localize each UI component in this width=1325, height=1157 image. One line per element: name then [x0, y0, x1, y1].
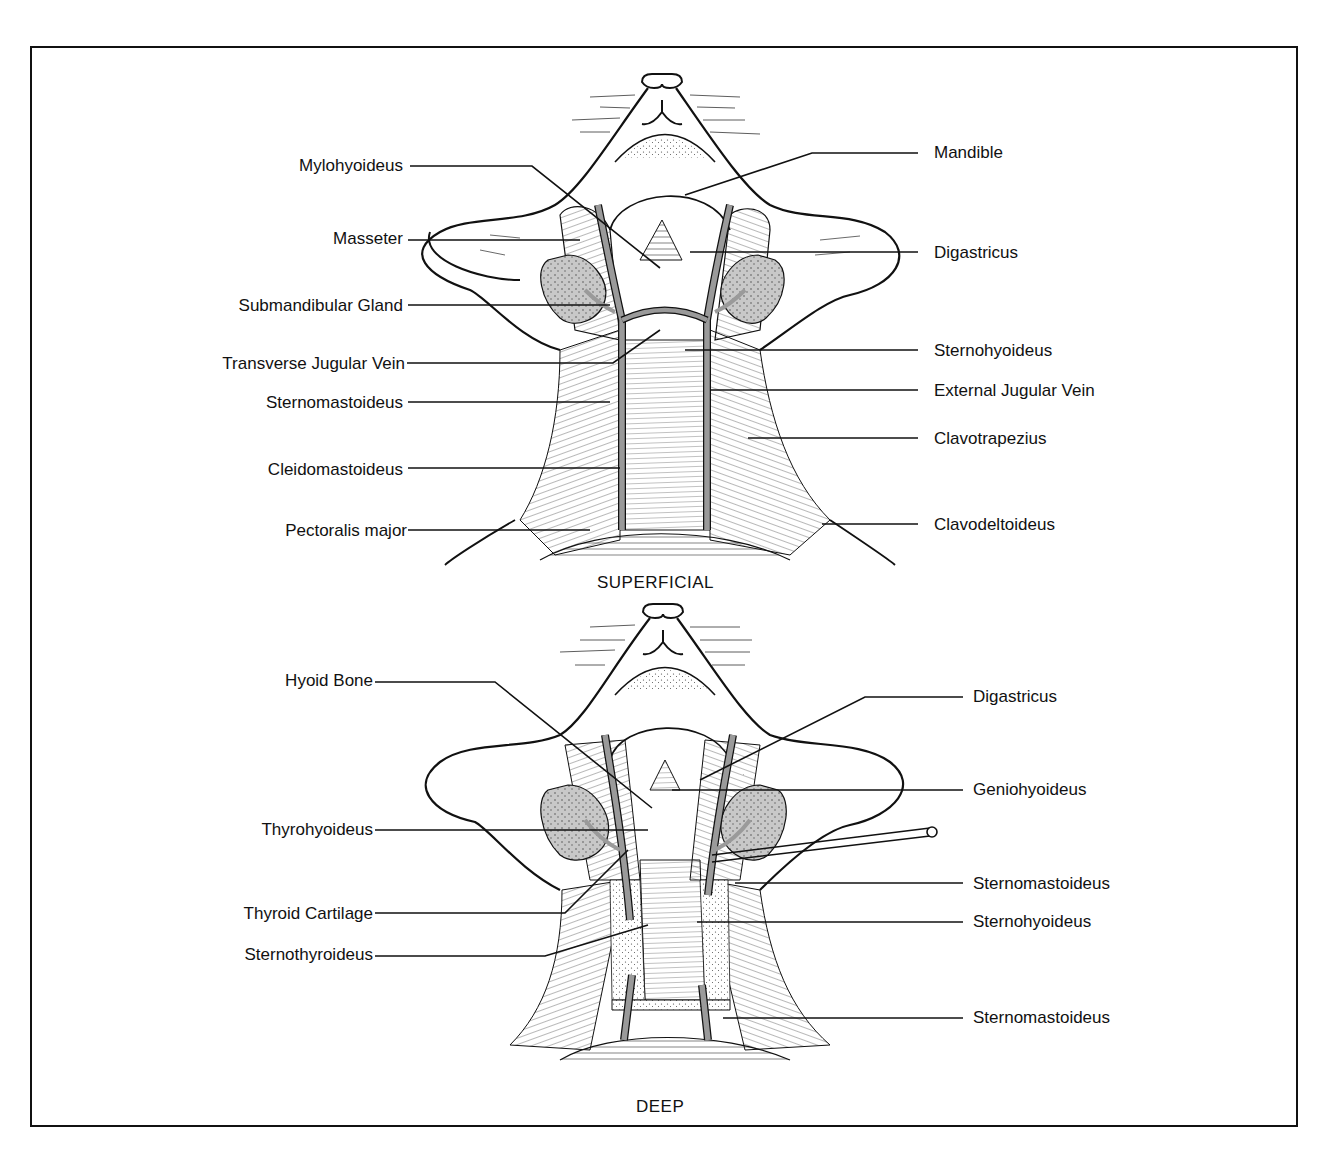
label-transverse-jugular-vein: Transverse Jugular Vein: [222, 354, 405, 374]
label-sternomastoideus: Sternomastoideus: [266, 393, 403, 413]
label-masseter: Masseter: [333, 229, 403, 249]
label-pectoralis-major: Pectoralis major: [285, 521, 407, 541]
caption-superficial: SUPERFICIAL: [597, 573, 714, 593]
label-clavodeltoideus: Clavodeltoideus: [934, 515, 1055, 535]
label-digastricus-deep: Digastricus: [973, 687, 1057, 707]
label-geniohyoideus: Geniohyoideus: [973, 780, 1086, 800]
label-mylohyoideus: Mylohyoideus: [299, 156, 403, 176]
label-digastricus: Digastricus: [934, 243, 1018, 263]
label-clavotrapezius: Clavotrapezius: [934, 429, 1046, 449]
label-sternohyoideus: Sternohyoideus: [934, 341, 1052, 361]
label-sternohyoideus-deep: Sternohyoideus: [973, 912, 1091, 932]
label-cleidomastoideus: Cleidomastoideus: [268, 460, 403, 480]
label-hyoid-bone: Hyoid Bone: [285, 671, 373, 691]
label-sternomastoideus-deep-upper: Sternomastoideus: [973, 874, 1110, 894]
label-mandible: Mandible: [934, 143, 1003, 163]
label-thyroid-cartilage: Thyroid Cartilage: [244, 904, 373, 924]
label-sternomastoideus-deep-lower: Sternomastoideus: [973, 1008, 1110, 1028]
caption-deep: DEEP: [636, 1097, 684, 1117]
label-submandibular-gland: Submandibular Gland: [239, 296, 403, 316]
label-external-jugular-vein: External Jugular Vein: [934, 381, 1095, 401]
label-thyrohyoideus: Thyrohyoideus: [261, 820, 373, 840]
deep-drawing: [426, 604, 937, 1060]
label-sternothyroideus: Sternothyroideus: [244, 945, 373, 965]
superficial-drawing: [422, 74, 899, 565]
